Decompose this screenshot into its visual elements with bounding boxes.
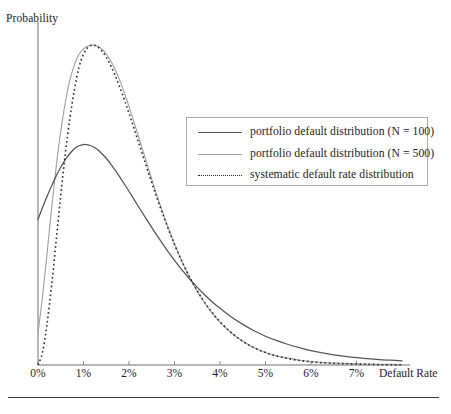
legend-swatch-dotted-icon xyxy=(198,169,242,181)
legend-label-portfolio-n100: portfolio default distribution (N = 100) xyxy=(250,125,434,138)
legend-item-portfolio-n500: portfolio default distribution (N = 500) xyxy=(187,142,427,165)
y-axis-label: Probability xyxy=(6,12,58,24)
x-tick-label: 1% xyxy=(76,367,91,379)
legend-swatch-solid-light-icon xyxy=(198,148,242,160)
x-tick-label: 3% xyxy=(167,367,182,379)
legend-swatch-solid-dark-icon xyxy=(198,126,242,138)
x-tick-label: 5% xyxy=(258,367,273,379)
legend-item-systematic: systematic default rate distribution xyxy=(187,163,427,186)
chart-canvas xyxy=(0,0,451,414)
chart-legend: portfolio default distribution (N = 100)… xyxy=(186,117,428,186)
legend-label-portfolio-n500: portfolio default distribution (N = 500) xyxy=(250,147,434,160)
x-tick-label: 6% xyxy=(303,367,318,379)
curves-group xyxy=(38,45,402,365)
x-tick-label: 0% xyxy=(30,367,45,379)
x-tick-label: 2% xyxy=(121,367,136,379)
curve-portfolio-n500 xyxy=(38,45,402,365)
x-tick-label: 4% xyxy=(212,367,227,379)
x-axis-label: Default Rate xyxy=(379,367,437,379)
x-tick-label: 7% xyxy=(349,367,364,379)
legend-label-systematic: systematic default rate distribution xyxy=(250,168,414,181)
chart-figure: Probability Default Rate 0%1%2%3%4%5%6%7… xyxy=(0,0,451,414)
axes-group xyxy=(38,22,410,365)
legend-item-portfolio-n100: portfolio default distribution (N = 100) xyxy=(187,120,427,143)
curve-systematic-default-rate xyxy=(38,45,402,365)
footer-rule xyxy=(8,397,439,398)
